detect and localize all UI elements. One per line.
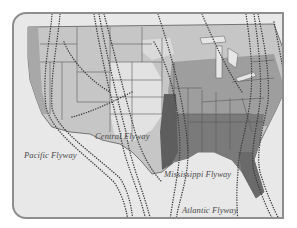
us-flyway-map: [14, 14, 284, 219]
central-flyway-label: Central Flyway: [95, 131, 150, 141]
map-frame: Pacific Flyway Central Flyway Mississipp…: [12, 12, 284, 219]
atlantic-flyway-label: Atlantic Flyway: [182, 205, 238, 215]
florida-dark: [238, 152, 264, 198]
pacific-flyway-label: Pacific Flyway: [24, 150, 77, 160]
mississippi-flyway-label: Mississippi Flyway: [164, 169, 231, 179]
